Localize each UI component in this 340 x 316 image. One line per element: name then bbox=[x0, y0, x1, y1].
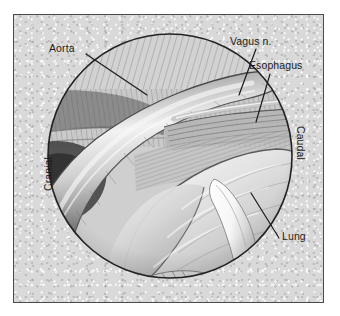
label-lung: Lung bbox=[282, 230, 306, 242]
retractor-collar bbox=[235, 262, 260, 267]
label-caudal: Caudal bbox=[295, 126, 307, 160]
label-cranial: Cranial bbox=[42, 157, 54, 191]
label-esophagus: Esophagus bbox=[249, 59, 302, 71]
retractor-shaft bbox=[236, 267, 264, 302]
label-vagus-nerve: Vagus n. bbox=[230, 35, 271, 47]
figure-root: Aorta Vagus n. Esophagus Lung Cranial Ca… bbox=[0, 0, 340, 316]
label-aorta: Aorta bbox=[49, 42, 75, 54]
illustration-frame: Aorta Vagus n. Esophagus Lung Cranial Ca… bbox=[13, 14, 324, 303]
